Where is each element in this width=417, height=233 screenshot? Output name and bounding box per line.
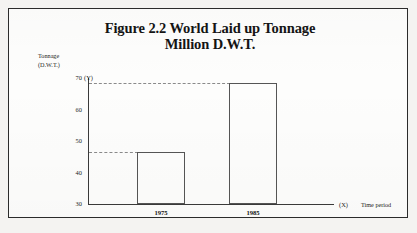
x-axis-caption: Time period (361, 201, 391, 208)
reference-line-1975 (89, 152, 138, 153)
y-axis-marker: (Y) (84, 74, 93, 81)
y-axis-line (88, 78, 89, 205)
bar-1975 (137, 152, 185, 204)
y-tick-label: 70 (66, 74, 82, 81)
x-tick-label: 1985 (229, 209, 277, 216)
y-tick-label: 60 (66, 106, 82, 113)
y-tick-label: 40 (66, 169, 82, 176)
x-tick-label: 1975 (137, 209, 185, 216)
y-tick-label: 50 (66, 137, 82, 144)
x-axis-marker: (X) (339, 201, 348, 208)
plot-area: (Y) (X) Time period 7060504030 19751985 (9, 9, 409, 219)
reference-line-1985 (89, 83, 230, 84)
y-tick-label: 30 (66, 200, 82, 207)
x-axis-line (88, 204, 334, 205)
bar-1985 (229, 83, 277, 204)
figure-frame: Figure 2.2 World Laid up Tonnage Million… (8, 8, 408, 218)
